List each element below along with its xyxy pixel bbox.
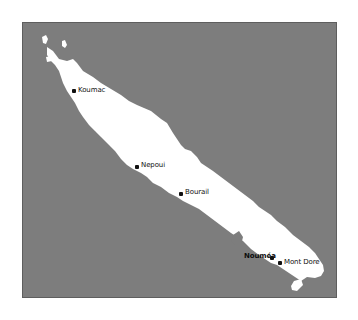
city-marker-nepoui — [135, 165, 139, 169]
city-marker-noumea — [270, 256, 274, 260]
city-marker-koumac — [72, 89, 76, 93]
grande-terre-landmass — [47, 47, 324, 281]
city-label-bourail: Bourail — [185, 188, 209, 196]
city-label-mont-dore: Mont Dore — [284, 258, 320, 266]
city-label-nepoui: Nepoui — [141, 161, 165, 169]
islet-south — [291, 279, 303, 291]
islet-north-3 — [46, 56, 52, 62]
island-map — [23, 23, 337, 298]
islet-north-2 — [62, 40, 67, 48]
city-label-koumac: Koumac — [78, 86, 105, 94]
city-marker-bourail — [179, 192, 183, 196]
islet-north-1 — [42, 35, 48, 44]
city-marker-mont-dore — [278, 261, 282, 265]
map-frame: Koumac Nepoui Bourail Nouméa Mont Dore — [22, 22, 337, 298]
